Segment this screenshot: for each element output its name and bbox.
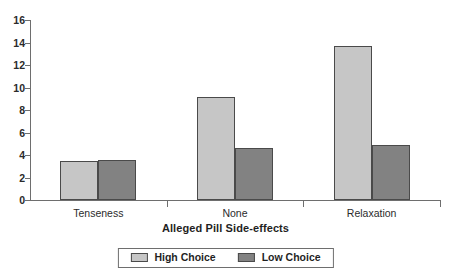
bar — [197, 97, 235, 201]
x-axis-tick-mark — [167, 201, 168, 207]
y-axis-tick-label: 6 — [19, 127, 25, 138]
y-axis-tick-mark — [25, 110, 30, 111]
legend-item-low-choice: Low Choice — [238, 252, 321, 263]
category-label: Relaxation — [347, 208, 397, 220]
bar — [235, 148, 273, 200]
plot-area: 0246810121416 — [30, 20, 440, 200]
y-axis-tick-mark — [25, 65, 30, 66]
legend-label-high-choice: High Choice — [154, 252, 215, 263]
category-label: Tenseness — [73, 208, 123, 220]
y-axis-tick-mark — [25, 155, 30, 156]
y-axis-tick-mark — [25, 20, 30, 21]
bar-chart: 0246810121416 TensenessNoneRelaxation Al… — [0, 0, 451, 277]
chart-legend: High Choice Low Choice — [117, 248, 333, 268]
y-axis-tick-label: 8 — [19, 105, 25, 116]
y-axis-tick-label: 0 — [19, 195, 25, 206]
bar — [372, 145, 410, 200]
y-axis-tick-mark — [25, 133, 30, 134]
bar — [60, 161, 98, 200]
y-axis-tick-label: 2 — [19, 172, 25, 183]
bar — [334, 46, 372, 200]
y-axis-tick-mark — [25, 43, 30, 44]
legend-swatch-high-choice — [130, 253, 147, 262]
y-axis-tick-label: 10 — [13, 82, 25, 93]
y-axis-tick-label: 4 — [19, 150, 25, 161]
y-axis-tick-label: 14 — [13, 37, 25, 48]
y-axis-tick-label: 16 — [13, 15, 25, 26]
y-axis-tick-mark — [25, 88, 30, 89]
y-axis-tick-mark — [25, 200, 30, 201]
x-axis-tick-mark — [440, 201, 441, 207]
x-axis-tick-mark — [303, 201, 304, 207]
legend-swatch-low-choice — [238, 253, 255, 262]
y-axis-tick-mark — [25, 178, 30, 179]
bar — [98, 160, 136, 201]
legend-item-high-choice: High Choice — [130, 252, 215, 263]
x-axis-title: Alleged Pill Side-effects — [0, 222, 451, 234]
x-axis-line — [30, 200, 441, 201]
legend-label-low-choice: Low Choice — [262, 252, 321, 263]
y-axis-tick-label: 12 — [13, 60, 25, 71]
category-label: None — [222, 208, 247, 220]
